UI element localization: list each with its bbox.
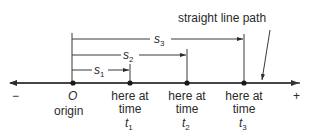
origin-symbol: O bbox=[68, 89, 77, 103]
t3-dot bbox=[241, 80, 246, 85]
t2-dot bbox=[184, 80, 189, 85]
t1-var: t1 bbox=[125, 116, 133, 132]
displacement-diagram: straight line path − + s3 s2 s1 O origin… bbox=[0, 0, 322, 138]
origin-label: origin bbox=[54, 104, 83, 118]
positive-sign: + bbox=[293, 89, 300, 103]
negative-sign: − bbox=[12, 89, 19, 103]
s2-label: s2 bbox=[123, 48, 134, 64]
straight-line-path-label: straight line path bbox=[178, 11, 266, 25]
t1-dot bbox=[127, 80, 132, 85]
s3-label: s3 bbox=[154, 32, 165, 48]
origin-dot bbox=[70, 80, 75, 85]
t2-line1: here at bbox=[168, 89, 206, 103]
s1-label: s1 bbox=[94, 63, 105, 79]
t2-var: t2 bbox=[182, 116, 190, 132]
t1-line2: time bbox=[119, 102, 142, 116]
annotation-pointer bbox=[262, 30, 270, 80]
t3-line2: time bbox=[233, 102, 256, 116]
t3-var: t3 bbox=[239, 116, 247, 132]
t1-line1: here at bbox=[111, 89, 149, 103]
t3-line1: here at bbox=[225, 89, 263, 103]
t2-line2: time bbox=[176, 102, 199, 116]
